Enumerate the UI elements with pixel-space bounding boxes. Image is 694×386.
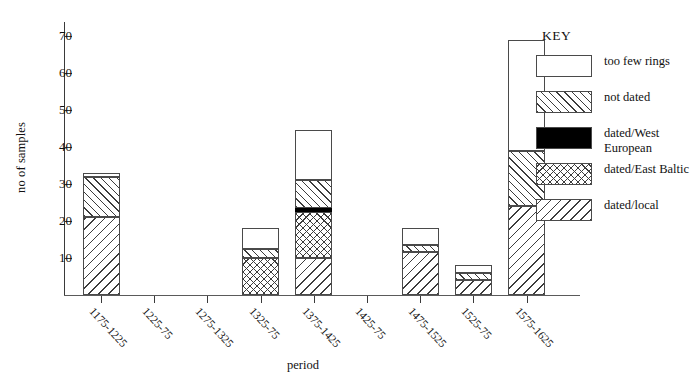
x-tick-label: 1325-75	[247, 305, 282, 341]
legend-label: dated/East Baltic	[604, 162, 694, 177]
x-tick-label: 1575-1625	[513, 305, 556, 350]
legend-swatch-blank	[536, 55, 592, 77]
x-tick-mark	[420, 296, 421, 303]
x-axis-line	[64, 295, 580, 296]
y-tick-label: 20	[44, 214, 72, 227]
legend-item: not dated	[536, 90, 686, 116]
x-tick-label: 1475-1525	[406, 305, 449, 350]
bar-segment-too-few-rings	[242, 228, 279, 248]
bar-1175-1225	[83, 173, 120, 295]
bar-segment-not-dated	[295, 180, 332, 208]
legend-swatch-solid-black	[536, 127, 592, 149]
bar-segment-too-few-rings	[295, 130, 332, 180]
legend-item: too few rings	[536, 54, 686, 80]
y-tick-label-wrap: 60	[0, 66, 72, 79]
x-tick-mark	[527, 296, 528, 303]
bar-segment-dated-east-baltic	[295, 212, 332, 258]
legend-swatch-cross-hatch	[536, 163, 592, 185]
x-tick-label: 1225-75	[140, 305, 175, 341]
bar-segment-not-dated	[242, 249, 279, 258]
legend-item: dated/East Baltic	[536, 162, 686, 188]
y-tick-label-wrap: 10	[0, 251, 72, 264]
y-tick-label: 30	[44, 177, 72, 190]
x-tick-mark	[314, 296, 315, 303]
bar-segment-dated-local	[455, 280, 492, 295]
x-tick-mark	[207, 296, 208, 303]
y-tick-label-wrap: 30	[0, 177, 72, 190]
x-tick-mark	[154, 296, 155, 303]
bar-1375-1425	[295, 130, 332, 295]
bar-1325-75	[242, 228, 279, 295]
legend-label: not dated	[604, 90, 694, 105]
bar-segment-dated-local	[83, 217, 120, 295]
y-tick-label-wrap: 40	[0, 140, 72, 153]
legend-label: dated/West European	[604, 126, 694, 155]
bar-segment-too-few-rings	[402, 228, 439, 245]
x-tick-label: 1175-1225	[87, 305, 129, 349]
x-tick-mark	[261, 296, 262, 303]
x-tick-mark	[367, 296, 368, 303]
legend: KEY too few ringsnot dateddated/West Eur…	[536, 28, 686, 234]
bar-segment-dated-local	[402, 252, 439, 295]
bar-segment-dated-local	[295, 258, 332, 295]
bar-segment-not-dated	[402, 245, 439, 252]
bar-segment-too-few-rings	[455, 265, 492, 272]
legend-title: KEY	[542, 28, 686, 44]
bar-segment-not-dated	[83, 177, 120, 218]
x-tick-mark	[101, 296, 102, 303]
bar-1525-75	[455, 265, 492, 295]
legend-label: dated/local	[604, 198, 694, 213]
x-tick-label: 1375-1425	[300, 305, 343, 350]
y-tick-label-wrap: 50	[0, 103, 72, 116]
y-tick-label: 60	[44, 66, 72, 79]
legend-item: dated/West European	[536, 126, 686, 152]
x-tick-label: 1425-75	[353, 305, 388, 341]
bar-segment-too-few-rings	[83, 173, 120, 177]
y-tick-label: 10	[44, 251, 72, 264]
bar-1475-1525	[402, 228, 439, 295]
y-tick-label-wrap: 70	[0, 29, 72, 42]
legend-item: dated/local	[536, 198, 686, 224]
y-tick-label: 50	[44, 103, 72, 116]
bar-segment-not-dated	[455, 273, 492, 280]
legend-label: too few rings	[604, 54, 694, 69]
x-axis-title: period	[287, 358, 319, 373]
x-tick-mark	[473, 296, 474, 303]
bar-segment-dated-east-baltic	[242, 258, 279, 295]
y-tick-label: 40	[44, 140, 72, 153]
y-axis-title: no of samples	[14, 103, 29, 213]
x-tick-label: 1525-75	[460, 305, 495, 341]
legend-rows: too few ringsnot dateddated/West Europea…	[536, 54, 686, 224]
bar-segment-dated-west-european	[295, 208, 332, 212]
legend-swatch-diagonal-down-hatch	[536, 199, 592, 221]
y-tick-label-wrap: 20	[0, 214, 72, 227]
legend-swatch-diagonal-up-hatch	[536, 91, 592, 113]
y-tick-label: 70	[44, 29, 72, 42]
x-tick-label: 1275-1325	[194, 305, 237, 350]
